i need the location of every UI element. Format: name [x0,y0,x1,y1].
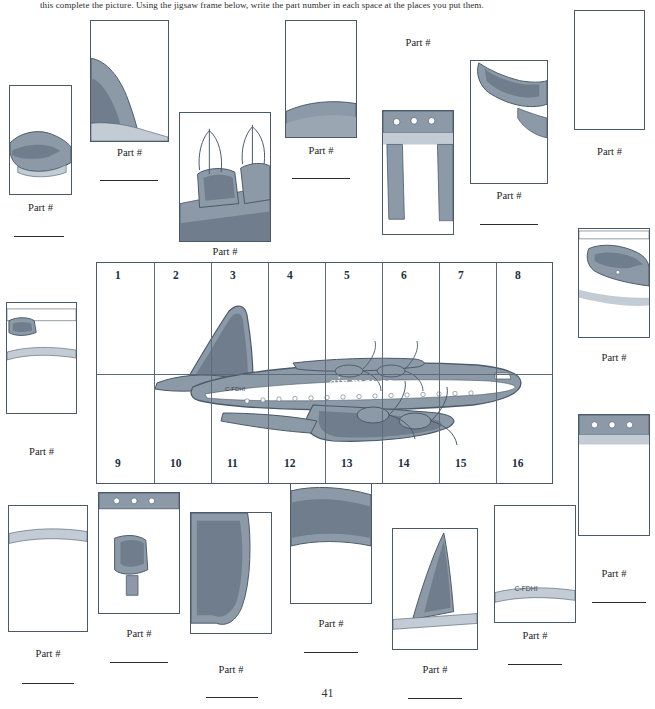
piece-blank-upper-right-label: Part # [574,146,645,157]
piece-tail-fin-label: Part # [90,147,169,158]
page-number: 41 [0,686,655,701]
worksheet-page: this complete the picture. Using the jig… [0,0,655,709]
grid-vline-4 [325,263,326,483]
grid-hline-mid [97,374,552,375]
piece-rear-wing[interactable] [578,414,650,536]
grid-cell-12: 12 [284,457,296,469]
piece-nose-registration-label: Part # [494,630,576,641]
piece-upper-fuselage-blank[interactable] [292,178,350,179]
piece-engine-props-label: Part # [179,246,271,257]
piece-tail-fin-blank[interactable] [100,180,158,181]
piece-wing-tip-blank[interactable] [480,224,538,225]
piece-lower-wing-left[interactable] [8,505,88,632]
piece-tail-fin[interactable] [90,20,169,142]
grid-vline-2 [211,263,212,483]
piece-wing-windows[interactable] [382,110,454,235]
piece-nose-registration[interactable]: C-FDHI [494,505,576,623]
piece-wing-windows-label: Part # [382,37,454,48]
piece-lower-wing-left-blank[interactable] [22,683,74,684]
svg-text:C-FDHI: C-FDHI [225,386,246,392]
piece-top-left-nose[interactable] [9,85,72,195]
piece-lower-wing-mid-blank[interactable] [304,652,358,653]
grid-cell-2: 2 [173,269,179,281]
piece-left-nose-low[interactable] [6,302,77,414]
svg-text:C-FDHI: C-FDHI [515,585,538,592]
svg-text:air mouse: air mouse [111,514,165,527]
piece-window-strip-blank[interactable] [110,662,168,663]
grid-cell-5: 5 [344,269,350,281]
piece-undercarriage-label: Part # [190,664,272,675]
piece-window-strip-label: Part # [98,628,180,639]
piece-upper-fuselage[interactable] [285,20,357,138]
grid-vline-1 [154,263,155,483]
grid-cell-8: 8 [515,269,521,281]
grid-cell-4: 4 [287,269,293,281]
instruction-text: this complete the picture. Using the jig… [40,0,620,10]
grid-cell-14: 14 [398,457,410,469]
piece-rear-wing-label: Part # [578,568,650,579]
grid-cell-6: 6 [401,269,407,281]
grid-vline-5 [382,263,383,483]
grid-cell-16: 16 [512,457,524,469]
svg-text:air mouse: air mouse [328,375,393,390]
grid-cell-3: 3 [230,269,236,281]
grid-vline-3 [268,263,269,483]
piece-tail-logo[interactable]: air mouse [392,528,478,650]
piece-tailplane[interactable] [578,228,650,338]
piece-undercarriage[interactable] [190,512,272,634]
piece-nose-registration-blank[interactable] [508,664,562,665]
grid-cell-13: 13 [341,457,353,469]
piece-wing-tip[interactable] [470,60,548,184]
piece-wing-tip-label: Part # [470,190,548,201]
grid-cell-1: 1 [115,269,121,281]
grid-vline-7 [496,263,497,483]
piece-lower-wing-left-label: Part # [8,648,88,659]
grid-vline-6 [439,263,440,483]
grid-cell-7: 7 [458,269,464,281]
piece-rear-wing-blank[interactable] [592,602,646,603]
piece-left-nose-low-label: Part # [6,446,77,457]
piece-upper-fuselage-label: Part # [285,145,357,156]
grid-cell-15: 15 [455,457,467,469]
svg-text:air mouse: air mouse [401,630,470,646]
piece-tail-logo-label: Part # [392,664,478,675]
piece-top-left-nose-label: Part # [9,202,72,213]
grid-cell-9: 9 [115,457,121,469]
piece-engine-props[interactable] [179,112,271,242]
piece-window-strip[interactable]: air mouse [98,492,180,614]
grid-cell-10: 10 [170,457,182,469]
jigsaw-frame[interactable]: air mouse C-FDHI [96,262,553,484]
grid-cell-11: 11 [227,457,238,469]
piece-lower-wing-mid-label: Part # [290,618,372,629]
piece-tailplane-label: Part # [578,352,650,363]
piece-lower-wing-mid[interactable] [290,482,372,604]
piece-top-left-nose-blank[interactable] [14,236,64,237]
piece-blank-upper-right[interactable] [574,10,645,130]
